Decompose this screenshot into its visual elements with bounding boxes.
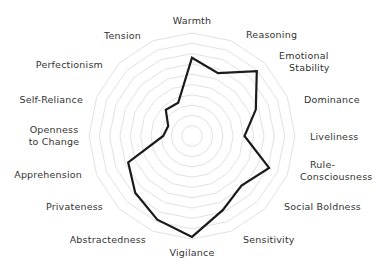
grid-ring-1 xyxy=(182,126,203,147)
axis-label-tension: Tension xyxy=(103,30,141,41)
grid-ring-6 xyxy=(130,74,254,198)
grid-ring-3 xyxy=(161,105,223,167)
axis-label-liveliness: Liveliness xyxy=(310,131,358,142)
grid-ring-7 xyxy=(120,64,264,208)
axis-labels: WarmthReasoningEmotionalStabilityDominan… xyxy=(14,15,372,258)
grid-ring-8 xyxy=(110,54,275,219)
axis-label-sensitivity: Sensitivity xyxy=(243,234,295,245)
axis-label-rule-consciousness: Rule-Consciousness xyxy=(300,159,372,182)
axis-label-abstractedness: Abstractedness xyxy=(70,234,146,245)
axis-label-reasoning: Reasoning xyxy=(246,29,297,40)
axis-label-vigilance: Vigilance xyxy=(170,247,215,258)
axis-label-self-reliance: Self-Reliance xyxy=(19,94,83,105)
axis-label-openness-to-change: Opennessto Change xyxy=(29,124,80,147)
grid-ring-2 xyxy=(171,115,212,156)
axis-label-emotional-stability: EmotionalStability xyxy=(279,50,330,73)
grid-rings xyxy=(89,33,295,239)
axis-label-warmth: Warmth xyxy=(173,15,212,26)
radar-chart: WarmthReasoningEmotionalStabilityDominan… xyxy=(0,0,377,276)
axis-label-social-boldness: Social Boldness xyxy=(284,201,361,212)
axis-label-privateness: Privateness xyxy=(46,201,103,212)
grid-ring-5 xyxy=(141,85,244,188)
axis-label-perfectionism: Perfectionism xyxy=(36,59,103,70)
profile-series-line xyxy=(128,58,269,237)
axis-label-apprehension: Apprehension xyxy=(14,169,82,180)
axis-label-dominance: Dominance xyxy=(304,94,360,105)
